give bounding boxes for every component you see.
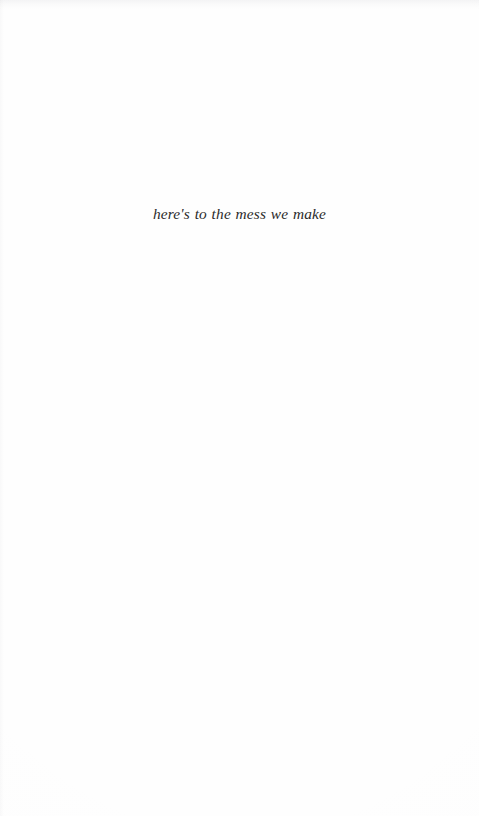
book-page: here's to the mess we make [0,0,479,816]
scan-edge-left-artifact [0,0,4,816]
epigraph-block: here's to the mess we make [0,203,479,224]
epigraph-text: here's to the mess we make [153,203,326,224]
scan-edge-top-artifact [0,0,479,9]
paper-grain-overlay [0,0,479,816]
